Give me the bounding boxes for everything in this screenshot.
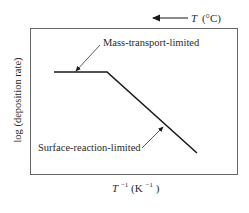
x-axis-symbol: T: [112, 182, 119, 194]
cvd-deposition-diagram: T (°C) Mass-transport-limited Surface-re…: [0, 0, 249, 213]
mass-transport-label: Mass-transport-limited: [103, 37, 200, 48]
x-axis-exponent: −1: [121, 181, 129, 189]
y-axis-label: log (deposition rate): [12, 57, 24, 143]
x-axis-unit-open: (K: [131, 182, 143, 195]
x-axis-unit-exponent: −1: [145, 181, 153, 189]
svg-text:T (°C): T (°C): [191, 12, 221, 25]
surface-reaction-pointer: [142, 127, 163, 148]
surface-reaction-label: Surface-reaction-limited: [38, 142, 141, 153]
top-axis-unit: (°C): [202, 12, 221, 25]
mass-transport-pointer: [76, 45, 100, 71]
deposition-rate-curve: [54, 72, 197, 153]
top-axis-symbol: T: [191, 12, 198, 24]
x-axis-unit-close: ): [156, 182, 160, 195]
svg-text:T −1 (K −1 ): T −1 (K −1 ): [112, 177, 160, 195]
